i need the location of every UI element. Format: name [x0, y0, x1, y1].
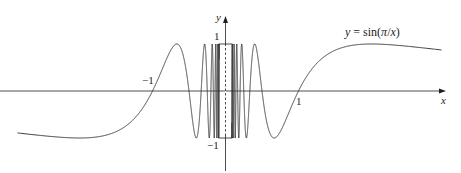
function-label: y = sin(π/x): [344, 25, 400, 39]
y-tick-label-neg1: −1: [207, 139, 219, 151]
x-tick-label-1: 1: [296, 95, 302, 107]
x-tick-label-neg1: −1: [142, 74, 154, 86]
x-axis-arrow-icon: [439, 89, 446, 94]
chart-figure: y x −1 1 1 −1 y = sin(π/x): [0, 0, 461, 173]
y-axis-arrow-icon: [223, 16, 228, 23]
y-tick-label-1: 1: [214, 30, 220, 42]
y-axis-label: y: [215, 11, 221, 23]
x-axis-label: x: [440, 94, 446, 106]
